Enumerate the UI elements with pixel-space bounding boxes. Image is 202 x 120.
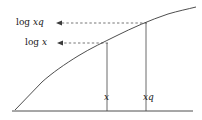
label-log-xq: log xq [16, 18, 44, 27]
axis-label-x: x [104, 93, 109, 102]
axis-label-x-text: x [104, 92, 109, 102]
label-log-xq-operator: log [16, 17, 30, 27]
axis-label-xq: xq [143, 93, 154, 102]
label-log-x: log x [25, 38, 47, 47]
label-log-x-argument: x [42, 37, 47, 47]
label-log-x-operator: log [25, 37, 39, 47]
logarithm-figure: log xq log x x xq [0, 0, 202, 120]
arrowhead-log-x-icon [57, 41, 63, 46]
label-log-xq-argument: xq [33, 17, 44, 27]
arrowhead-log-xq-icon [56, 21, 62, 26]
axis-label-xq-text: xq [143, 92, 154, 102]
